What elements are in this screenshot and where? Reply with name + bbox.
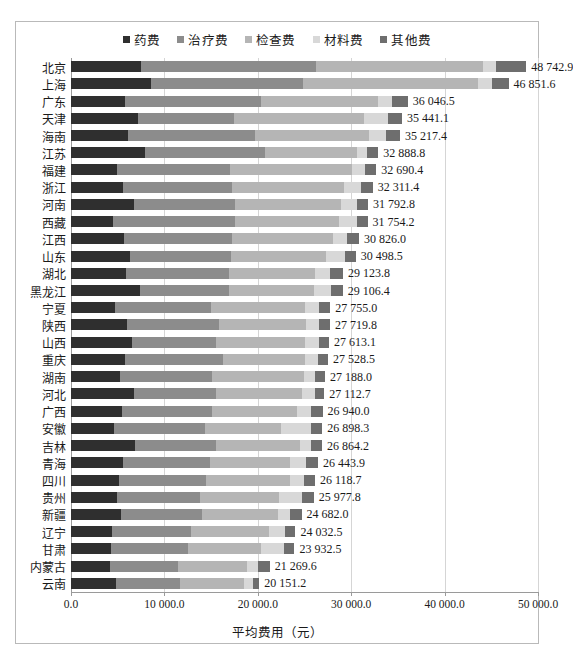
bar-segment xyxy=(316,61,483,72)
bar-segment xyxy=(306,457,318,468)
bar-segment xyxy=(127,319,219,330)
bar-segment xyxy=(71,509,121,520)
bar-segment xyxy=(132,337,217,348)
stacked-bar[interactable] xyxy=(71,388,324,399)
bar-segment xyxy=(311,423,322,434)
bar-segment xyxy=(496,61,526,72)
bar-row: 重庆27 528.5 xyxy=(71,351,538,368)
stacked-bar[interactable] xyxy=(71,354,328,365)
y-axis-tick-label: 安徽 xyxy=(42,420,66,437)
stacked-bar[interactable] xyxy=(71,440,322,451)
stacked-bar[interactable] xyxy=(71,509,302,520)
bar-segment xyxy=(244,578,253,589)
bar-segment xyxy=(333,233,348,244)
stacked-bar[interactable] xyxy=(71,216,368,227)
stacked-bar[interactable] xyxy=(71,251,356,262)
bar-segment xyxy=(200,492,279,503)
bar-segment xyxy=(206,475,289,486)
bar-value-label: 29 123.8 xyxy=(348,266,390,281)
bar-row: 陕西27 719.8 xyxy=(71,316,538,333)
bar-segment xyxy=(188,543,261,554)
bar-segment xyxy=(347,233,358,244)
stacked-bar[interactable] xyxy=(71,268,343,279)
x-axis-tick-label: 0.0 xyxy=(64,598,78,610)
bar-segment xyxy=(212,371,304,382)
x-axis: 0.010 000.020 000.030 000.040 000.050 00… xyxy=(71,592,538,593)
legend-item-4[interactable]: 材料费 xyxy=(313,30,364,49)
bar-segment xyxy=(357,199,368,210)
bar-row: 安徽26 898.3 xyxy=(71,420,538,437)
y-axis-tick-label: 湖南 xyxy=(42,368,66,385)
x-axis-tick xyxy=(445,592,446,596)
stacked-bar[interactable] xyxy=(71,147,378,158)
stacked-bar[interactable] xyxy=(71,492,314,503)
stacked-bar[interactable] xyxy=(71,182,373,193)
stacked-bar[interactable] xyxy=(71,199,368,210)
bar-segment xyxy=(71,543,111,554)
bar-segment xyxy=(331,285,343,296)
bar-segment xyxy=(386,130,400,141)
bar-value-label: 29 106.4 xyxy=(348,283,390,298)
legend-swatch-icon xyxy=(313,36,320,43)
bar-value-label: 20 151.2 xyxy=(264,576,306,591)
stacked-bar[interactable] xyxy=(71,543,294,554)
bar-segment xyxy=(311,406,323,417)
y-axis-tick-label: 吉林 xyxy=(42,437,66,454)
bar-segment xyxy=(191,526,269,537)
bar-segment xyxy=(265,147,357,158)
bar-segment xyxy=(367,147,378,158)
stacked-bar[interactable] xyxy=(71,319,330,330)
bar-segment xyxy=(125,354,223,365)
bar-value-label: 32 690.4 xyxy=(381,162,423,177)
x-axis-tick xyxy=(164,592,165,596)
bar-segment xyxy=(290,475,304,486)
bar-segment xyxy=(230,164,352,175)
stacked-bar[interactable] xyxy=(71,406,323,417)
bar-segment xyxy=(319,319,329,330)
bar-segment xyxy=(141,61,316,72)
bar-segment xyxy=(285,526,296,537)
legend-item-2[interactable]: 治疗费 xyxy=(177,30,228,49)
y-axis-tick-label: 江苏 xyxy=(42,144,66,161)
bar-segment xyxy=(319,337,329,348)
stacked-bar[interactable] xyxy=(71,337,329,348)
stacked-bar[interactable] xyxy=(71,371,325,382)
bar-row: 北京48 742.9 xyxy=(71,58,538,75)
legend-item-3[interactable]: 检查费 xyxy=(245,30,296,49)
stacked-bar[interactable] xyxy=(71,164,376,175)
bar-segment xyxy=(138,113,234,124)
bar-segment xyxy=(71,199,134,210)
bar-row: 湖南27 188.0 xyxy=(71,368,538,385)
bar-segment xyxy=(135,440,215,451)
bar-segment xyxy=(314,285,331,296)
bar-segment xyxy=(114,423,205,434)
legend-item-5[interactable]: 其他费 xyxy=(380,30,431,49)
legend-swatch-icon xyxy=(123,36,130,43)
stacked-bar[interactable] xyxy=(71,526,295,537)
stacked-bar[interactable] xyxy=(71,130,400,141)
bar-value-label: 23 932.5 xyxy=(300,541,342,556)
stacked-bar[interactable] xyxy=(71,475,315,486)
legend-swatch-icon xyxy=(380,36,387,43)
stacked-bar[interactable] xyxy=(71,96,408,107)
stacked-bar[interactable] xyxy=(71,457,318,468)
bar-segment xyxy=(302,388,315,399)
stacked-bar[interactable] xyxy=(71,285,343,296)
legend-item-1[interactable]: 药费 xyxy=(123,30,160,49)
stacked-bar[interactable] xyxy=(71,561,270,572)
stacked-bar[interactable] xyxy=(71,233,359,244)
bar-segment xyxy=(281,423,311,434)
stacked-bar[interactable] xyxy=(71,61,526,72)
bar-value-label: 27 613.1 xyxy=(334,335,376,350)
bar-value-label: 27 188.0 xyxy=(330,369,372,384)
bar-segment xyxy=(134,199,236,210)
stacked-bar[interactable] xyxy=(71,78,509,89)
stacked-bar[interactable] xyxy=(71,302,330,313)
bar-segment xyxy=(365,164,376,175)
stacked-bar[interactable] xyxy=(71,423,322,434)
stacked-bar[interactable] xyxy=(71,113,402,124)
bar-segment xyxy=(71,96,125,107)
legend-label: 其他费 xyxy=(391,30,431,49)
stacked-bar[interactable] xyxy=(71,578,259,589)
bar-value-label: 35 441.1 xyxy=(407,111,449,126)
